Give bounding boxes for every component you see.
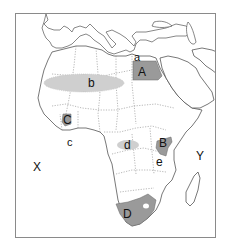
label-a: a: [134, 52, 140, 63]
label-e: e: [156, 156, 163, 168]
label-B: B: [159, 137, 167, 149]
lesotho: [143, 204, 149, 209]
label-b: b: [88, 77, 95, 89]
label-Y: Y: [196, 150, 204, 162]
label-A: A: [138, 66, 146, 78]
europe-coast: [42, 14, 192, 54]
africa-map: [16, 14, 216, 238]
label-c: c: [67, 137, 73, 148]
map-frame: a A b C c d B e X Y D: [15, 13, 216, 238]
label-d: d: [124, 139, 131, 151]
zone-b: [44, 74, 124, 92]
label-X: X: [33, 161, 41, 173]
madagascar: [186, 172, 200, 206]
label-C: C: [63, 114, 72, 126]
label-D: D: [123, 208, 132, 220]
